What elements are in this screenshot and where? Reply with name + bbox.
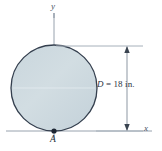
dimension-symbol: D — [97, 79, 104, 89]
point-a-marker — [51, 128, 56, 133]
dimension-arrow-bottom-icon — [124, 124, 129, 131]
y-axis-label: y — [51, 2, 55, 11]
dimension-unit: in. — [125, 79, 135, 89]
dimension-arrow-top-icon — [124, 46, 129, 53]
dimension-value: 18 — [114, 79, 123, 89]
diameter-dimension-label: D = 18 in. — [97, 80, 135, 89]
diagram-svg — [0, 0, 162, 151]
point-a-label: A — [50, 135, 56, 145]
x-axis-label: x — [144, 124, 148, 133]
dimension-equals: = — [106, 79, 111, 89]
figure-canvas: y x A D = 18 in. — [0, 0, 162, 151]
